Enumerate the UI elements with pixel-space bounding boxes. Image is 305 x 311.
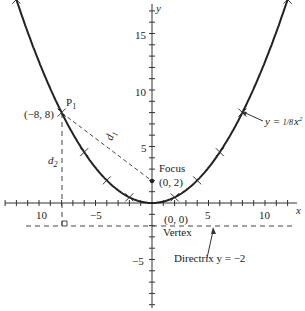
tick-label-x-neg10: 10 [36,209,48,221]
focus-point [150,179,154,183]
x-axis-label: x [295,204,301,216]
tick-label-y-15: 15 [135,29,147,41]
d2-label: d2 [48,154,58,169]
p1-label: P1 [66,96,76,111]
focus-label: Focus [159,162,185,174]
tick-label-y-neg5: −5 [132,255,144,267]
p1-coord: (−8, 8) [24,108,54,121]
d1-label: d1 [103,129,120,143]
y-axis-label: y [155,2,161,14]
tick-label-y-5: 5 [141,142,147,154]
equation-label: y = 1/8x2 [264,115,303,127]
diagram-canvas: P1 (−8, 8) Focus (0, 2) (0, 0) Vertex Di… [0,0,305,311]
tick-label-x-10: 10 [259,209,271,221]
tick-label-y-10: 10 [135,86,147,98]
parabola-diagram: P1 (−8, 8) Focus (0, 2) (0, 0) Vertex Di… [0,0,305,311]
vertex-coord: (0, 0) [164,213,188,226]
tick-label-x-neg5: −5 [90,209,102,221]
focus-coord: (0, 2) [159,176,183,189]
d1-line [62,113,152,181]
directrix-label: Directrix y = −2 [174,252,245,264]
right-angle-marker [62,221,67,226]
tick-label-x-5: 5 [205,209,211,221]
directrix-arrowhead [211,227,216,234]
vertex-label: Vertex [163,226,192,238]
